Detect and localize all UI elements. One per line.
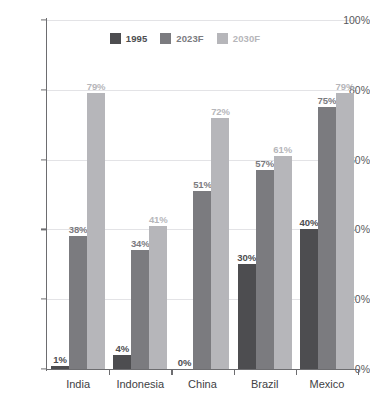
bar-value-indonesia-1995: 4% (116, 343, 130, 354)
bar-value-brazil-2030f: 61% (273, 144, 292, 155)
bar-chart: 1995 2023F 2030F 100%80%60%40%20%0% 1%38… (0, 0, 370, 408)
x-axis-line (47, 369, 359, 370)
category-label-indonesia: Indonesia (109, 378, 171, 390)
bar-group-bars: 40%75%79% (296, 20, 358, 369)
bar-value-india-2030f: 79% (87, 81, 106, 92)
x-tick-mark-2 (234, 369, 235, 375)
x-tick-mark-3 (296, 369, 297, 375)
bar-indonesia-1995[interactable] (113, 355, 131, 369)
x-tick-mark-0 (109, 369, 110, 375)
bar-group-indonesia: 4%34%41% (109, 20, 171, 369)
bar-group-bars: 1%38%79% (47, 20, 109, 369)
bar-slot: 72% (211, 20, 229, 369)
bar-value-china-1995: 0% (178, 357, 192, 368)
legend-label-2023f: 2023F (176, 33, 203, 44)
bar-slot: 51% (193, 20, 211, 369)
bar-group-india: 1%38%79% (47, 20, 109, 369)
bar-slot: 75% (318, 20, 336, 369)
legend-label-1995: 1995 (126, 33, 148, 44)
bar-mexico-1995[interactable] (300, 229, 318, 369)
bar-group-bars: 0%51%72% (171, 20, 233, 369)
legend-item-2030f[interactable]: 2030F (217, 33, 260, 44)
x-tick-mark-1 (171, 369, 172, 375)
bar-group-brazil: 30%57%61% (234, 20, 296, 369)
bar-group-china: 0%51%72% (171, 20, 233, 369)
bar-group-bars: 4%34%41% (109, 20, 171, 369)
bar-slot: 57% (256, 20, 274, 369)
bar-brazil-1995[interactable] (238, 264, 256, 369)
bar-value-india-2023f: 38% (69, 224, 88, 235)
bar-group-bars: 30%57%61% (234, 20, 296, 369)
category-label-china: China (171, 378, 233, 390)
bar-indonesia-2030f[interactable] (149, 226, 167, 369)
bar-slot: 38% (69, 20, 87, 369)
legend-swatch-2030f (217, 33, 228, 44)
y-tick-mark-100 (41, 19, 46, 20)
bar-value-china-2030f: 72% (211, 106, 230, 117)
bar-indonesia-2023f[interactable] (131, 250, 149, 369)
bar-value-india-1995: 1% (53, 354, 67, 365)
bar-india-1995[interactable] (51, 366, 69, 369)
bar-brazil-2023f[interactable] (256, 170, 274, 369)
bar-slot: 40% (300, 20, 318, 369)
y-tick-mark-20 (41, 299, 46, 300)
bar-slot: 34% (131, 20, 149, 369)
x-tick-mark-4 (358, 369, 359, 375)
y-tick-mark-0 (41, 368, 46, 369)
y-tick-mark-80 (41, 89, 46, 90)
bar-brazil-2030f[interactable] (274, 156, 292, 369)
bar-slot: 41% (149, 20, 167, 369)
category-label-india: India (47, 378, 109, 390)
bar-china-2030f[interactable] (211, 118, 229, 369)
y-tick-mark-40 (41, 229, 46, 230)
bar-mexico-2023f[interactable] (318, 107, 336, 369)
bar-slot: 79% (336, 20, 354, 369)
bar-china-2023f[interactable] (193, 191, 211, 369)
chart-title-clipped (40, 0, 340, 7)
bar-value-mexico-2030f: 79% (336, 81, 355, 92)
category-label-mexico: Mexico (296, 378, 358, 390)
bar-slot: 0% (175, 20, 193, 369)
y-tick-mark-60 (41, 159, 46, 160)
legend-item-1995[interactable]: 1995 (110, 33, 148, 44)
legend-item-2023f[interactable]: 2023F (160, 33, 203, 44)
bar-mexico-2030f[interactable] (336, 93, 354, 369)
legend-label-2030f: 2030F (233, 33, 260, 44)
bar-slot: 30% (238, 20, 256, 369)
bar-slot: 1% (51, 20, 69, 369)
bar-value-mexico-2023f: 75% (318, 95, 337, 106)
bar-value-china-2023f: 51% (193, 179, 212, 190)
bar-value-brazil-2023f: 57% (255, 158, 274, 169)
bar-india-2030f[interactable] (87, 93, 105, 369)
bar-slot: 4% (113, 20, 131, 369)
bar-group-mexico: 40%75%79% (296, 20, 358, 369)
bar-india-2023f[interactable] (69, 236, 87, 369)
bar-slot: 79% (87, 20, 105, 369)
legend-swatch-2023f (160, 33, 171, 44)
bar-value-indonesia-2030f: 41% (149, 214, 168, 225)
bar-value-mexico-1995: 40% (300, 217, 319, 228)
bar-slot: 61% (274, 20, 292, 369)
chart-legend: 1995 2023F 2030F (0, 33, 370, 44)
bar-value-indonesia-2023f: 34% (131, 238, 150, 249)
legend-swatch-1995 (110, 33, 121, 44)
bar-value-brazil-1995: 30% (237, 252, 256, 263)
category-label-brazil: Brazil (234, 378, 296, 390)
